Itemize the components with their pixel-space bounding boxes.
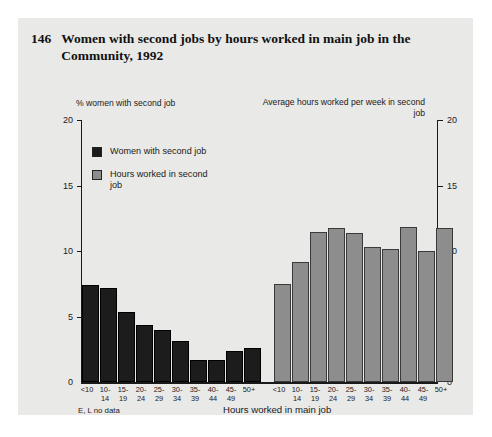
chart-legend: Women with second job Hours worked in se… [92, 146, 218, 203]
bar [190, 360, 207, 382]
left-axis-tick-20 [77, 120, 82, 121]
x-axis-title: Hours worked in main job [223, 404, 331, 415]
bar [382, 249, 399, 383]
left-axis-label-20: 20 [51, 116, 73, 125]
page-title: Women with second jobs by hours worked i… [61, 30, 431, 64]
bar-slot [382, 120, 400, 382]
legend-swatch-gray-icon [92, 170, 102, 180]
bar-slot [310, 120, 328, 382]
left-axis-label-0: 0 [51, 378, 73, 387]
bar-slot [274, 120, 292, 382]
bar [274, 284, 291, 382]
left-axis-tick-10 [77, 251, 82, 252]
x-axis-category-label: 30-34 [360, 386, 378, 403]
x-axis-category-label: <10 [270, 386, 288, 403]
bar-slot [244, 120, 262, 382]
bar [310, 232, 327, 383]
x-axis-category-label: 25-29 [150, 386, 168, 403]
bar [346, 233, 363, 382]
bar-slot [346, 120, 364, 382]
bottom-axis-line [81, 382, 438, 384]
bar-slot [292, 120, 310, 382]
left-axis-label-5: 5 [51, 313, 73, 322]
bar-slot [328, 120, 346, 382]
x-axis-category-labels-right: <10 10-1415-1920-2425-2930-3435-3940-444… [270, 386, 450, 403]
bar [418, 251, 435, 382]
bar [244, 348, 261, 382]
bar [364, 247, 381, 382]
figure-panel: 146 Women with second jobs by hours work… [18, 18, 473, 415]
x-axis-category-label: 35-39 [186, 386, 204, 403]
bar [154, 330, 171, 382]
figure-number: 146 [31, 30, 51, 47]
bar [118, 312, 135, 383]
bar-slot [418, 120, 436, 382]
right-axis-caption: Average hours worked per week in second … [255, 97, 425, 119]
x-axis-category-label: 50+ [240, 386, 258, 403]
x-axis-category-label: 45-49 [222, 386, 240, 403]
x-axis-category-label: 15-19 [114, 386, 132, 403]
x-axis-category-label: 30-34 [168, 386, 186, 403]
bar-slot [226, 120, 244, 382]
x-axis-category-label: 40-44 [396, 386, 414, 403]
x-axis-category-label: 45-49 [414, 386, 432, 403]
bar-slot [436, 120, 454, 382]
bar [292, 262, 309, 383]
x-axis-category-label: <10 [78, 386, 96, 403]
x-axis-category-label: 50+ [432, 386, 450, 403]
left-axis-label-15: 15 [51, 182, 73, 191]
bar [208, 360, 225, 382]
bar [100, 288, 117, 382]
bar [328, 228, 345, 383]
left-axis-caption: % women with second job [76, 98, 175, 109]
legend-label-hours-worked-second-job: Hours worked in second job [110, 169, 218, 192]
bar [136, 325, 153, 383]
legend-item-hours-worked-second-job: Hours worked in second job [92, 169, 218, 192]
left-axis-tick-5 [77, 317, 82, 318]
x-axis-category-label: 20-24 [324, 386, 342, 403]
bar-slot [364, 120, 382, 382]
bar-group-hours-worked-second-job [274, 120, 454, 382]
bar-slot [400, 120, 418, 382]
x-axis-category-label: 25-29 [342, 386, 360, 403]
x-axis-category-labels-left: <10 10-1415-1920-2425-2930-3435-3940-444… [78, 386, 258, 403]
bar [436, 228, 453, 383]
legend-item-women-with-second-job: Women with second job [92, 146, 218, 158]
x-axis-category-label: 40-44 [204, 386, 222, 403]
x-axis-category-label: 35-39 [378, 386, 396, 403]
bar [172, 341, 189, 383]
legend-label-women-with-second-job: Women with second job [110, 146, 206, 158]
x-axis-category-label: 10-14 [288, 386, 306, 403]
x-axis-category-label: 10-14 [96, 386, 114, 403]
x-axis-category-label: 20-24 [132, 386, 150, 403]
bar [400, 227, 417, 383]
x-axis-category-label: 15-19 [306, 386, 324, 403]
left-axis-label-10: 10 [51, 247, 73, 256]
bar [82, 285, 99, 382]
figure-title-block: 146 Women with second jobs by hours work… [31, 30, 451, 64]
bar [226, 351, 243, 382]
legend-swatch-dark-icon [92, 147, 102, 157]
left-axis-tick-15 [77, 186, 82, 187]
chart-footnote: E, L no data [78, 406, 120, 415]
